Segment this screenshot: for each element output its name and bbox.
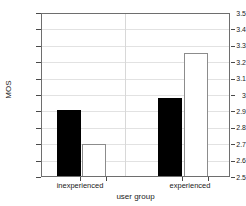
gridline-3.3 <box>42 46 229 47</box>
y-right-tick-3.2 <box>231 62 235 63</box>
group-separator-line <box>125 14 126 176</box>
x-axis-title: user group <box>41 192 230 201</box>
y-right-tick-3.3 <box>231 46 235 47</box>
y-right-tick-2.8 <box>231 128 235 129</box>
bar-inexperienced-white <box>82 144 106 176</box>
y-right-tick-2.7 <box>231 144 235 145</box>
y-right-tick-2.6 <box>231 161 235 162</box>
x-tick-label-inexperienced: inexperienced <box>38 181 122 190</box>
y-axis-title: MOS <box>4 70 13 110</box>
y-right-tick-2.9 <box>231 111 235 112</box>
y-right-tick-3.4 <box>231 29 235 30</box>
x-tick-label-experienced: experienced <box>148 181 232 190</box>
bar-inexperienced-black <box>57 110 81 176</box>
plot-area <box>41 13 230 177</box>
bar-experienced-black <box>158 98 182 176</box>
y-right-tick-3.1 <box>231 79 235 80</box>
y-right-tick-2.5 <box>231 177 235 178</box>
gridline-3.4 <box>42 29 229 30</box>
y-right-tick-3 <box>231 95 235 96</box>
bar-chart: MOS 2.5 2.6 2.7 2.8 2.9 3 3.1 3.2 3.3 3.… <box>0 0 246 206</box>
y-tick-mark-2.5 <box>36 177 41 178</box>
bar-experienced-white <box>184 53 208 176</box>
